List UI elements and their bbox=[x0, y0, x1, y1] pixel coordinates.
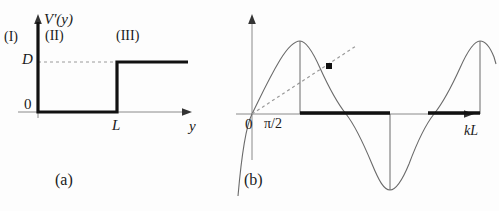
panel-b-plot bbox=[232, 0, 499, 211]
figure-container: V'(y) (I) (II) (III) D 0 L y (a) bbox=[0, 0, 499, 211]
panel-b: 0 π/2 kL (b) bbox=[232, 0, 499, 211]
panel-a-level-zero-label: 0 bbox=[24, 97, 32, 112]
panel-a-y-axis-label: V'(y) bbox=[44, 12, 73, 27]
panel-a-region-1-label: (I) bbox=[4, 30, 18, 44]
panel-b-y-axis bbox=[248, 14, 256, 160]
panel-a: V'(y) (I) (II) (III) D 0 L y (a) bbox=[0, 0, 232, 211]
panel-a-region-2-label: (II) bbox=[45, 29, 64, 43]
panel-b-dashed-line bbox=[252, 46, 356, 114]
panel-a-region-3-label: (III) bbox=[116, 29, 139, 43]
panel-a-x-axis-label: y bbox=[189, 119, 196, 134]
panel-a-level-d-label: D bbox=[22, 52, 33, 67]
panel-b-x-tick-halfpi-label: π/2 bbox=[264, 117, 282, 131]
panel-b-caption: (b) bbox=[244, 172, 263, 188]
panel-a-caption: (a) bbox=[55, 172, 73, 188]
panel-b-origin-label: 0 bbox=[245, 117, 253, 132]
panel-b-intersection-marker bbox=[326, 63, 332, 69]
panel-b-x-axis-label: kL bbox=[464, 124, 478, 138]
panel-a-x-tick-l-label: L bbox=[112, 118, 120, 133]
